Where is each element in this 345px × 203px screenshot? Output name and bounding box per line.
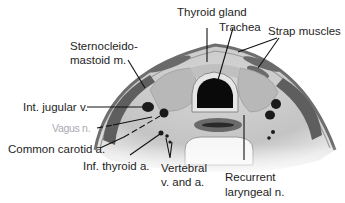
label-common-carotid: Common carotid a. (8, 143, 105, 156)
label-recurrent-line2: laryngeal n. (225, 186, 284, 199)
vertebral-vessel-right-1 (271, 130, 275, 134)
label-vertebral-line2: v. and a. (161, 176, 204, 189)
label-inf-thyroid: Inf. thyroid a. (83, 160, 149, 173)
label-sternocleidomastoid-line1: Sternocleido- (70, 40, 138, 53)
label-recurrent-line1: Recurrent (225, 171, 276, 184)
int-jugular-vein-left (142, 102, 154, 112)
label-vertebral-line1: Vertebral (161, 162, 207, 175)
vertebral-vessel-left-1 (165, 134, 169, 138)
neck-cross-section-diagram: Thyroid gland Trachea Strap muscles Ster… (0, 0, 345, 203)
label-int-jugular: Int. jugular v. (23, 101, 88, 114)
label-thyroid-gland: Thyroid gland (177, 6, 247, 19)
label-trachea: Trachea (219, 21, 261, 34)
common-carotid-left (160, 109, 169, 118)
vertebral-vessel-left-2 (168, 140, 171, 143)
label-strap-muscles: Strap muscles (268, 25, 341, 38)
label-sternocleidomastoid-line2: mastoid m. (70, 54, 126, 67)
label-vagus: Vagus n. (52, 122, 90, 135)
common-carotid-right (265, 111, 275, 120)
int-jugular-vein-right (271, 99, 281, 109)
vertebral-vessel-right-2 (267, 136, 271, 140)
